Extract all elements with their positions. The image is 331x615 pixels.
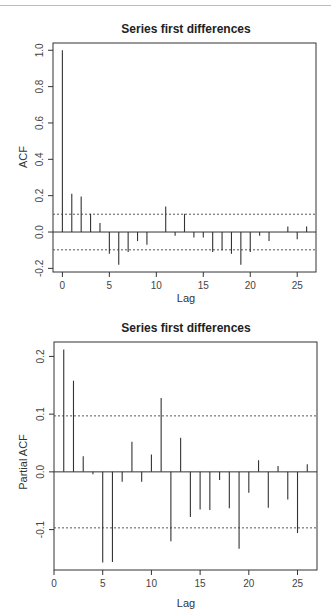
acf-chart: Series first differences 0510152025-0.20… — [0, 0, 331, 305]
pacf-x-tick-label: 25 — [292, 578, 304, 589]
acf-y-tick-label: 0.4 — [34, 152, 45, 166]
acf-y-tick-label: 0.6 — [34, 116, 45, 130]
acf-y-axis-label: ACF — [17, 146, 29, 168]
acf-x-axis-label: Lag — [177, 292, 195, 304]
acf-x-tick-label: 5 — [107, 280, 113, 291]
acf-y-tick-label: 0.2 — [34, 188, 45, 202]
acf-x-tick-label: 15 — [198, 280, 210, 291]
acf-x-tick-label: 25 — [292, 280, 304, 291]
pacf-chart-title: Series first differences — [121, 321, 251, 335]
pacf-y-tick-label: 0.0 — [35, 464, 46, 478]
pacf-x-axis-label: Lag — [177, 597, 195, 609]
pacf-x-tick-label: 20 — [243, 578, 255, 589]
acf-plot-area: 0510152025-0.20.00.20.40.60.81.0 — [34, 43, 316, 291]
acf-x-tick-label: 10 — [151, 280, 163, 291]
acf-plot-frame — [53, 43, 316, 272]
pacf-chart: Series first differences 0510152025-0.10… — [0, 305, 331, 615]
pacf-plot-area: 0510152025-0.10.00.10.2 — [35, 342, 317, 589]
acf-y-tick-label: 1.0 — [34, 43, 45, 57]
pacf-x-tick-label: 15 — [195, 578, 207, 589]
acf-y-tick-label: 0.8 — [34, 79, 45, 93]
pacf-x-tick-label: 10 — [146, 578, 158, 589]
acf-x-tick-label: 20 — [245, 280, 257, 291]
pacf-y-axis-label: Partial ACF — [17, 434, 29, 490]
acf-y-tick-label: -0.2 — [34, 259, 45, 277]
pacf-x-tick-label: 5 — [100, 578, 106, 589]
pacf-y-tick-label: 0.2 — [35, 349, 46, 363]
pacf-y-tick-label: 0.1 — [35, 407, 46, 421]
acf-y-tick-label: 0.0 — [34, 225, 45, 239]
pacf-x-tick-label: 0 — [51, 578, 57, 589]
acf-x-tick-label: 0 — [60, 280, 66, 291]
acf-chart-title: Series first differences — [121, 22, 251, 36]
pacf-plot-frame — [54, 342, 317, 570]
pacf-y-tick-label: -0.1 — [35, 521, 46, 539]
